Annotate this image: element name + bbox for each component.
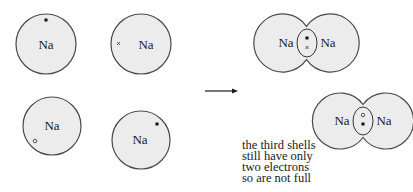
atom-label: Na xyxy=(138,37,153,52)
atom-label: Na xyxy=(132,132,147,147)
electron-dot-icon xyxy=(44,18,48,22)
atom-label: Na xyxy=(38,37,53,52)
molecule-left-label: Na xyxy=(278,35,293,50)
molecule-shell xyxy=(312,93,413,149)
sodium-molecule-2: Na Na xyxy=(312,93,413,149)
sodium-atom-1: Na xyxy=(16,14,76,74)
electron-dot-icon xyxy=(155,122,159,126)
molecule-left-label: Na xyxy=(334,113,349,128)
sodium-atom-2: Na xyxy=(111,14,171,74)
electron-dot-icon xyxy=(305,36,309,40)
sodium-bonding-diagram: Na Na Na Na Na Na xyxy=(0,0,413,192)
molecule-shell xyxy=(254,14,359,72)
atom-label: Na xyxy=(44,118,59,133)
note-line-4: so are not full xyxy=(242,171,312,185)
sodium-molecule-1: Na Na xyxy=(254,14,359,72)
reaction-arrow-icon xyxy=(205,89,238,94)
electron-dot-icon xyxy=(361,122,365,126)
molecule-right-label: Na xyxy=(376,113,391,128)
explanation-note: the third shells still have only two ele… xyxy=(242,138,316,185)
sodium-atom-3: Na xyxy=(23,97,81,155)
molecule-right-label: Na xyxy=(320,35,335,50)
sodium-atom-4: Na xyxy=(112,111,170,169)
